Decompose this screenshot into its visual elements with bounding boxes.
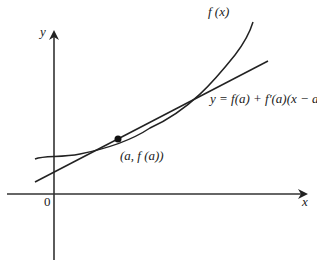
tangent-line xyxy=(35,61,268,182)
origin-label: 0 xyxy=(44,194,51,209)
point-label: (a, f (a)) xyxy=(120,148,164,163)
tangent-line-label: y = f(a) + f′(a)(x − a) xyxy=(208,91,317,106)
curve-label: f (x) xyxy=(208,4,229,19)
y-axis-label: y xyxy=(38,24,46,39)
x-axis-label: x xyxy=(301,194,308,209)
tangent-point xyxy=(115,136,122,143)
tangent-line-diagram: y x 0 f (x) y = f(a) + f′(a)(x − a) (a, … xyxy=(0,0,317,269)
